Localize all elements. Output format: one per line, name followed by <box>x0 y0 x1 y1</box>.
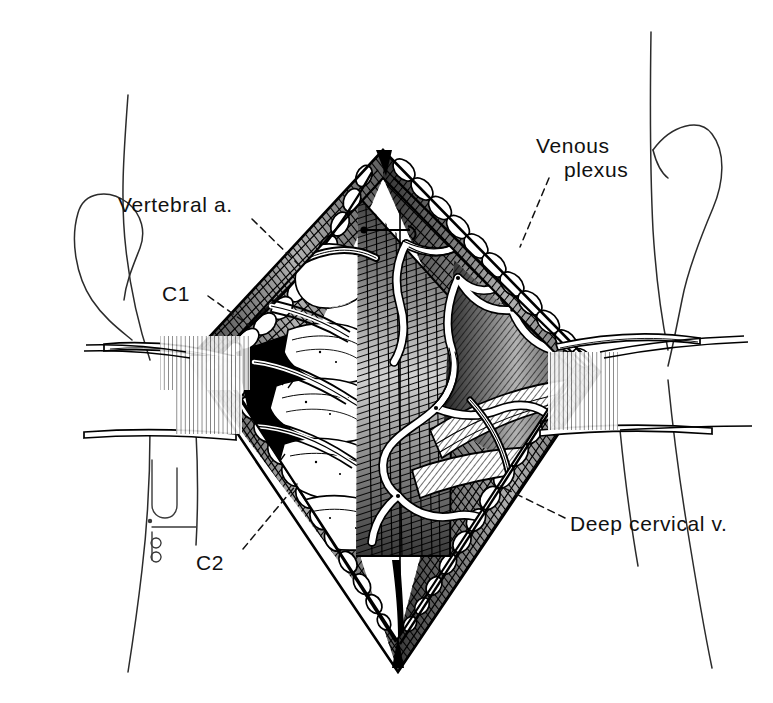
label-vertebral-artery: Vertebral a. <box>118 193 233 217</box>
left-skin-flap-hatch <box>176 356 242 434</box>
label-venous-plexus-line2: plexus <box>536 158 628 182</box>
label-c1: C1 <box>162 282 190 306</box>
surgical-illustration-figure: Vertebral a. C1 Venousplexus C2 Deep cer… <box>0 0 773 703</box>
label-venous-plexus-line1: Venous <box>536 134 610 157</box>
right-skin-flap-hatch <box>548 352 618 430</box>
label-c2: C2 <box>196 551 224 575</box>
label-deep-cervical-vein: Deep cervical v. <box>570 512 727 536</box>
illustration-canvas <box>0 0 773 703</box>
label-venous-plexus: Venousplexus <box>536 134 628 181</box>
